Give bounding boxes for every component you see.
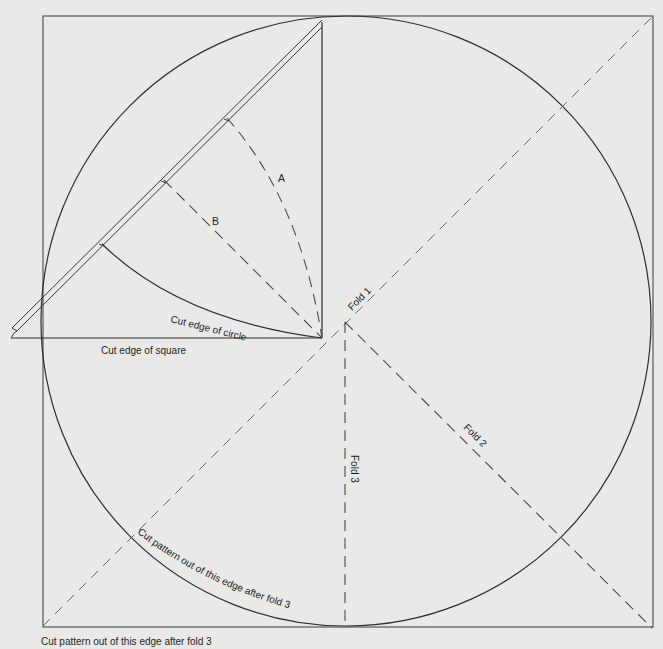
label-fold-3: Fold 3 bbox=[349, 455, 360, 483]
label-a: A bbox=[278, 172, 285, 184]
fold-1-line bbox=[43, 17, 652, 626]
circle bbox=[41, 16, 651, 626]
folding-diagram: A B Cut edge of circle Cut edge of squar… bbox=[0, 0, 663, 649]
label-b: B bbox=[212, 215, 219, 227]
label-fold-2: Fold 2 bbox=[462, 422, 490, 450]
fold-2-line bbox=[345, 322, 652, 628]
label-cut-pattern-curved: Cut pattern out of this edge after fold … bbox=[136, 526, 292, 611]
label-cut-edge-square: Cut edge of square bbox=[101, 345, 186, 356]
label-cut-pattern-caption: Cut pattern out of this edge after fold … bbox=[41, 636, 212, 647]
label-fold-1: Fold 1 bbox=[346, 285, 374, 313]
folded-triangle bbox=[11, 20, 322, 338]
